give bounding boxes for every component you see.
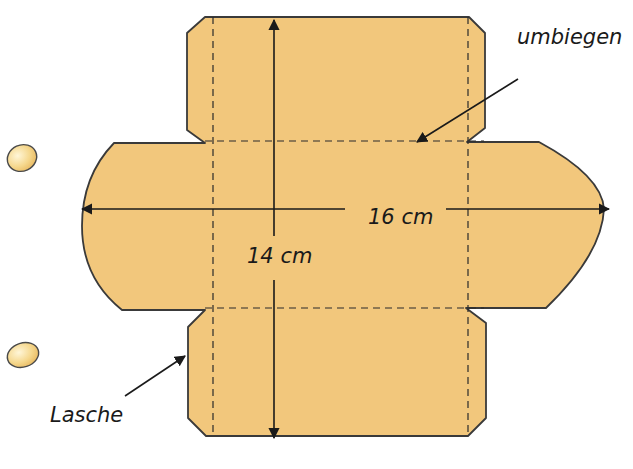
coin-icon-top (3, 140, 41, 176)
box-net-diagram (0, 0, 633, 469)
width-label: 16 cm (368, 207, 433, 228)
fold-label: umbiegen (517, 27, 622, 48)
height-label: 14 cm (247, 246, 312, 267)
coin-icon-bottom (4, 339, 42, 372)
tab-label: Lasche (50, 405, 123, 426)
tab-pointer-arrow (125, 356, 185, 396)
